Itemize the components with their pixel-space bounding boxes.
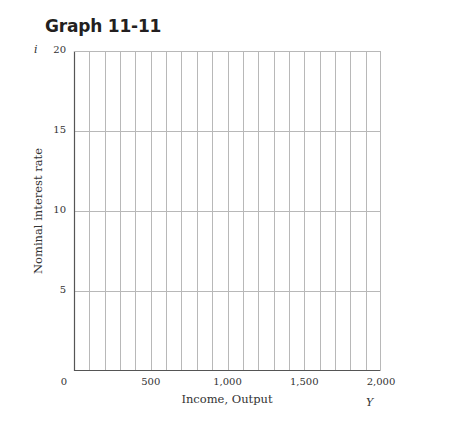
graph-title: Graph 11-11 <box>45 16 161 36</box>
x-tick-label: 2,000 <box>356 376 406 387</box>
x-tick-label: 1,500 <box>279 376 329 387</box>
y-tick-label: 15 <box>36 124 66 135</box>
x-tick-label: 500 <box>126 376 176 387</box>
y-tick-label: 10 <box>36 204 66 215</box>
y-tick-label: 5 <box>36 284 66 295</box>
x-tick-label: 1,000 <box>203 376 253 387</box>
x-tick-label: 0 <box>39 376 89 387</box>
y-tick-label: 20 <box>36 44 66 55</box>
plot-area <box>74 51 381 371</box>
x-axis-symbol: Y <box>366 396 373 409</box>
x-axis-label: Income, Output <box>181 392 272 406</box>
grid <box>74 51 381 371</box>
